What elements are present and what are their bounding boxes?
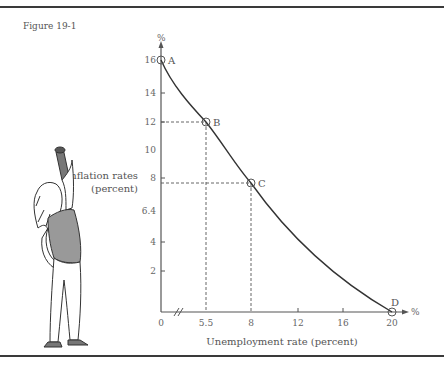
- phillips-curve: [161, 60, 392, 312]
- svg-text:4: 4: [150, 237, 156, 247]
- svg-text:10: 10: [145, 145, 157, 155]
- point-a-label: A: [167, 55, 176, 66]
- phillips-curve-chart: % % 2 4 6.4 8 10 12 14 16 0 5.5 8 12 16 …: [0, 0, 444, 368]
- point-b-label: B: [213, 117, 220, 128]
- svg-text:12: 12: [145, 117, 156, 127]
- y-tick-labels: 2 4 6.4 8 10 12 14 16: [142, 55, 157, 276]
- y-axis-title-line2: (percent): [91, 183, 138, 194]
- y-axis-title-line1: Inflation rates: [66, 170, 138, 181]
- svg-text:5.5: 5.5: [199, 318, 214, 328]
- reference-lines: [161, 122, 251, 312]
- svg-text:12: 12: [292, 318, 303, 328]
- data-points: [157, 56, 396, 316]
- svg-text:8: 8: [150, 173, 156, 183]
- y-axis-unit: %: [157, 33, 166, 43]
- svg-text:2: 2: [150, 266, 156, 276]
- svg-text:16: 16: [337, 318, 349, 328]
- x-tick-labels: 0 5.5 8 12 16 20: [158, 318, 398, 328]
- svg-text:14: 14: [145, 88, 157, 98]
- svg-text:6.4: 6.4: [142, 206, 157, 216]
- svg-text:8: 8: [248, 318, 254, 328]
- x-axis-title: Unemployment rate (percent): [206, 336, 357, 347]
- svg-text:20: 20: [386, 318, 398, 328]
- svg-text:16: 16: [145, 55, 157, 65]
- point-c-label: C: [258, 178, 266, 189]
- y-ticks: [161, 93, 165, 271]
- svg-text:0: 0: [158, 318, 164, 328]
- axes: [161, 46, 404, 312]
- x-axis-unit: %: [411, 307, 420, 317]
- point-d-label: D: [391, 297, 399, 308]
- x-axis-arrow-icon: [402, 310, 409, 315]
